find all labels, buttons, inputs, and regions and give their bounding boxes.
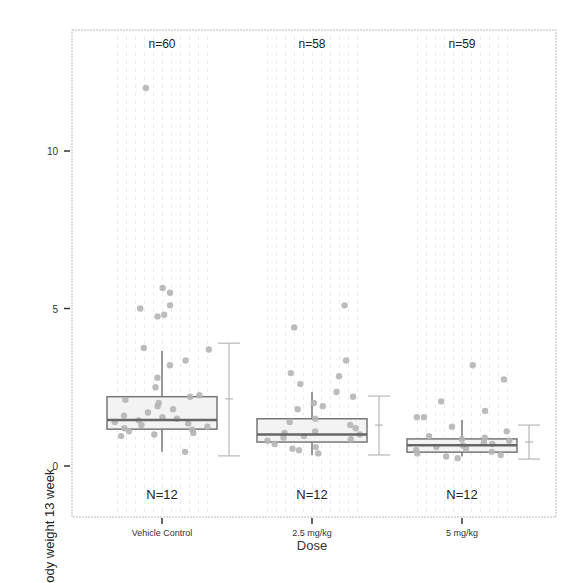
data-point (187, 394, 193, 400)
data-point (438, 398, 444, 404)
data-point (312, 416, 318, 422)
data-point (443, 453, 449, 459)
data-point (470, 362, 476, 368)
data-point (182, 357, 188, 363)
y-axis-label: Body weight 13 week (42, 410, 62, 583)
x-tick-label: Vehicle Control (132, 528, 193, 538)
data-point (449, 423, 455, 429)
data-point (353, 425, 359, 431)
data-point (141, 345, 147, 351)
data-point (167, 302, 173, 308)
data-point (489, 449, 495, 455)
data-point (264, 438, 270, 444)
group-size-label: N=12 (146, 487, 177, 502)
x-axis-label: Dose (262, 538, 362, 553)
data-point (341, 302, 347, 308)
data-point (182, 449, 188, 455)
data-point (289, 445, 295, 451)
data-point (196, 392, 202, 398)
data-point (151, 431, 157, 437)
data-point (336, 373, 342, 379)
sample-count-label: n=59 (448, 37, 475, 51)
y-tick-label: 5 (52, 304, 58, 315)
data-point (454, 455, 460, 461)
data-point (421, 414, 427, 420)
data-point (121, 425, 127, 431)
data-point (159, 285, 165, 291)
data-point (294, 406, 300, 412)
data-point (189, 427, 195, 433)
data-point (313, 444, 319, 450)
data-point (311, 400, 317, 406)
data-point (118, 433, 124, 439)
data-point (121, 412, 127, 418)
data-point (287, 419, 293, 425)
data-point (348, 436, 354, 442)
group-size-label: N=12 (296, 487, 327, 502)
data-point (347, 422, 353, 428)
group-size-label: N=12 (446, 487, 477, 502)
data-point (320, 403, 326, 409)
data-point (161, 312, 167, 318)
data-point (272, 441, 278, 447)
data-point (504, 428, 510, 434)
data-point (426, 433, 432, 439)
data-point (152, 384, 158, 390)
data-point (143, 85, 149, 91)
data-point (155, 400, 161, 406)
data-point (413, 447, 419, 453)
data-point (414, 414, 420, 420)
data-point (167, 290, 173, 296)
data-point (122, 397, 128, 403)
data-point (206, 346, 212, 352)
data-point (498, 452, 504, 458)
y-tick-label: 10 (47, 146, 59, 157)
x-tick-label: 5 mg/kg (446, 528, 478, 538)
data-point (315, 450, 321, 456)
data-point (204, 423, 210, 429)
sample-count-label: n=60 (148, 37, 175, 51)
data-point (154, 313, 160, 319)
data-point (296, 447, 302, 453)
data-point (167, 362, 173, 368)
data-point (459, 436, 465, 442)
data-point (297, 381, 303, 387)
data-point (343, 357, 349, 363)
sample-count-label: n=58 (298, 37, 325, 51)
data-point (137, 305, 143, 311)
data-point (501, 376, 507, 382)
x-axis: Vehicle Control2.5 mg/kg5 mg/kg (132, 518, 478, 538)
box-plot-chart: 0510 Vehicle Control2.5 mg/kg5 mg/kg n=6… (0, 0, 584, 583)
data-point (506, 438, 512, 444)
data-point (482, 434, 488, 440)
data-point (154, 375, 160, 381)
data-point (291, 324, 297, 330)
data-point (482, 408, 488, 414)
data-point (350, 394, 356, 400)
data-point (145, 409, 151, 415)
data-point (333, 389, 339, 395)
data-point (170, 406, 176, 412)
x-tick-label: 2.5 mg/kg (292, 528, 332, 538)
data-point (288, 370, 294, 376)
